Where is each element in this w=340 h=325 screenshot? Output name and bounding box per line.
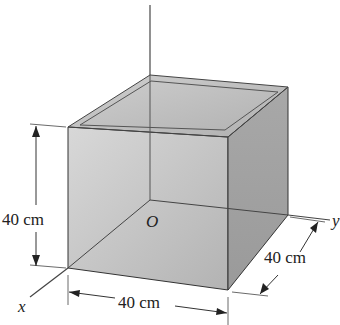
x-axis: [30, 268, 68, 297]
depth-dimension-label: 40 cm: [264, 249, 306, 266]
box-diagram: [0, 0, 340, 325]
front-face: [68, 127, 228, 290]
x-axis-label: x: [18, 298, 26, 315]
height-dimension-label: 40 cm: [2, 211, 44, 228]
origin-label: O: [146, 213, 158, 230]
y-axis-label: y: [332, 212, 340, 229]
width-dimension-label: 40 cm: [118, 294, 160, 311]
